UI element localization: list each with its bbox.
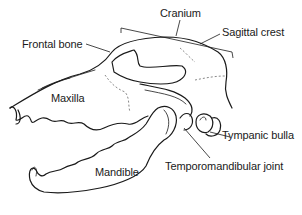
label-tympanic-bulla: Tympanic bulla bbox=[222, 130, 294, 141]
label-maxilla: Maxilla bbox=[51, 93, 85, 104]
mandible-outline bbox=[29, 106, 176, 192]
label-cranium: Cranium bbox=[160, 8, 201, 19]
label-mandible: Mandible bbox=[95, 167, 139, 178]
label-sagittal-crest: Sagittal crest bbox=[222, 27, 284, 38]
label-temporomandibular-joint: Temporomandibular joint bbox=[165, 161, 283, 172]
upper-teeth bbox=[10, 107, 148, 130]
orbit bbox=[112, 50, 186, 84]
label-frontal-bone: Frontal bone bbox=[22, 39, 83, 50]
